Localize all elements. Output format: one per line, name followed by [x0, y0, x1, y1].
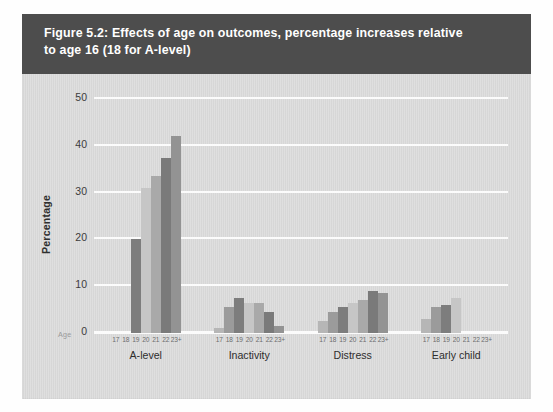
x-axis-tick-label: 20	[348, 336, 358, 343]
bar-group: 17181920212223+Inactivity	[198, 99, 302, 333]
x-axis-tick-label: 22	[368, 336, 378, 343]
y-axis-tick-label: 30	[75, 185, 87, 197]
figure-title-line-2: to age 16 (18 for A-level)	[44, 42, 505, 59]
bar[interactable]	[224, 307, 234, 333]
bar[interactable]	[328, 312, 338, 333]
bar-group: 17181920212223+Distress	[301, 99, 405, 333]
y-axis-tick-label: 50	[75, 91, 87, 103]
x-axis-tick-label: 18	[328, 336, 338, 343]
bar-series	[421, 99, 491, 333]
x-axis-tick-label: 23+	[481, 336, 491, 343]
x-axis-tick-label: 17	[318, 336, 328, 343]
x-axis-tick-label: 23+	[378, 336, 388, 343]
bar[interactable]	[368, 291, 378, 333]
bar[interactable]	[348, 303, 358, 333]
x-axis-title: Age	[58, 330, 71, 339]
x-axis-tick-labels: 17181920212223+	[111, 336, 181, 343]
x-axis-tick-label: 22	[264, 336, 274, 343]
bar[interactable]	[131, 239, 141, 333]
x-axis-tick-label: 23+	[171, 336, 181, 343]
x-axis-tick-label: 17	[421, 336, 431, 343]
bar[interactable]	[264, 312, 274, 333]
bar[interactable]	[234, 298, 244, 333]
x-axis-tick-labels: 17181920212223+	[421, 336, 491, 343]
plot-area: 01020304050 17181920212223+A-level171819…	[94, 99, 508, 333]
y-axis-tick-label: 20	[75, 231, 87, 243]
bar[interactable]	[441, 305, 451, 333]
x-axis-tick-label: 20	[141, 336, 151, 343]
x-axis-tick-label: 18	[121, 336, 131, 343]
x-axis-tick-label: 19	[234, 336, 244, 343]
bar[interactable]	[421, 319, 431, 333]
bar-group-label: A-level	[130, 349, 162, 361]
bar[interactable]	[244, 303, 254, 333]
x-axis-tick-label: 19	[338, 336, 348, 343]
x-axis-tick-label: 19	[441, 336, 451, 343]
bar[interactable]	[141, 188, 151, 333]
figure-title-bar: Figure 5.2: Effects of age on outcomes, …	[22, 14, 531, 74]
x-axis-tick-labels: 17181920212223+	[318, 336, 388, 343]
x-axis-tick-label: 20	[244, 336, 254, 343]
bar-series	[111, 99, 181, 333]
bar[interactable]	[151, 176, 161, 333]
x-axis-tick-label: 21	[151, 336, 161, 343]
x-axis-tick-label: 21	[358, 336, 368, 343]
bar[interactable]	[318, 321, 328, 333]
y-axis-tick-label: 0	[81, 325, 87, 337]
x-axis-tick-label: 23+	[274, 336, 284, 343]
x-axis-tick-label: 17	[111, 336, 121, 343]
bar[interactable]	[451, 298, 461, 333]
bar-group: 17181920212223+Early child	[405, 99, 509, 333]
figure-title-line-1: Figure 5.2: Effects of age on outcomes, …	[44, 25, 505, 42]
x-axis-tick-label: 22	[161, 336, 171, 343]
bar[interactable]	[254, 303, 264, 333]
bar[interactable]	[171, 136, 181, 333]
x-axis-tick-label: 19	[131, 336, 141, 343]
y-axis-tick-label: 10	[75, 278, 87, 290]
chart-canvas: Percentage Age 01020304050 1718192021222…	[22, 74, 531, 399]
bar[interactable]	[358, 300, 368, 333]
bar-group-label: Early child	[432, 349, 481, 361]
bar-group: 17181920212223+A-level	[94, 99, 198, 333]
bar[interactable]	[338, 307, 348, 333]
bar-groups: 17181920212223+A-level17181920212223+Ina…	[94, 99, 508, 333]
x-axis-tick-label: 18	[224, 336, 234, 343]
bar-group-label: Distress	[334, 349, 372, 361]
bar-group-label: Inactivity	[229, 349, 270, 361]
bar[interactable]	[378, 293, 388, 333]
bar-series	[214, 99, 284, 333]
y-axis-tick-label: 40	[75, 138, 87, 150]
figure-root: Figure 5.2: Effects of age on outcomes, …	[0, 0, 553, 412]
x-axis-tick-labels: 17181920212223+	[214, 336, 284, 343]
x-axis-tick-label: 21	[461, 336, 471, 343]
bar[interactable]	[214, 328, 224, 333]
y-axis-title: Percentage	[40, 195, 52, 254]
x-axis-tick-label: 21	[254, 336, 264, 343]
x-axis-tick-label: 20	[451, 336, 461, 343]
bar[interactable]	[274, 326, 284, 333]
x-axis-tick-label: 17	[214, 336, 224, 343]
bar-series	[318, 99, 388, 333]
x-axis-tick-label: 18	[431, 336, 441, 343]
bar[interactable]	[431, 307, 441, 333]
x-axis-tick-label: 22	[471, 336, 481, 343]
bar[interactable]	[161, 158, 171, 334]
